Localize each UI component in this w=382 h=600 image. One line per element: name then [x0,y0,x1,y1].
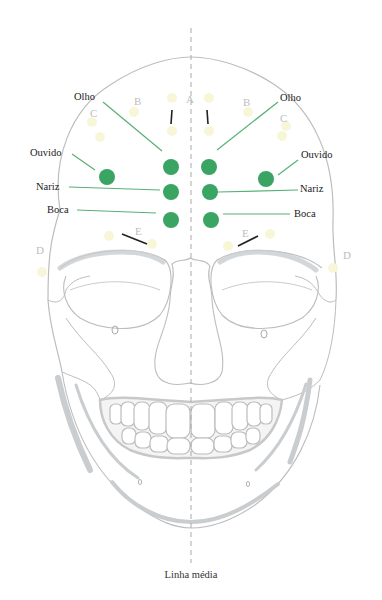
figure-caption: Linha média [0,569,382,580]
label-mouth-right: Boca [294,209,316,220]
acupoint-mouth-left [163,212,179,228]
acupoint-eye-right [201,159,217,175]
label-ear-left: Ouvido [30,148,62,159]
leader-lines [69,102,298,214]
label-eye-left: Olho [74,92,95,103]
acupoints [99,159,274,228]
nasal-cavity [155,258,223,384]
skull-illustration [0,0,382,600]
label-ear-right: Ouvido [301,150,333,161]
left-orbit [60,251,171,329]
zone-label-b-right: B [243,97,250,108]
zone-label-e-left: E [135,226,142,237]
label-mouth-left: Boca [47,205,69,216]
acupoint-nose-left [163,184,179,200]
zone-label-c-right: C [280,113,287,124]
label-nose-left: Nariz [36,182,59,193]
acupoint-ear-right [258,171,274,187]
acupoint-eye-left [163,159,179,175]
acupoint-nose-right [202,184,218,200]
acupoint-mouth-right [203,212,219,228]
skull-acupoint-diagram: A B B C C D D E E Olho Ouvido Nariz Boca… [0,0,382,600]
acupoint-ear-left [99,169,115,185]
zone-spots [37,93,338,277]
tick-marks [122,110,258,246]
zone-label-b-left: B [134,96,141,107]
zone-label-e-right: E [242,228,249,239]
label-eye-right: Olho [280,93,301,104]
zone-label-d-right: D [343,250,351,261]
label-nose-right: Nariz [300,184,323,195]
zone-label-d-left: D [36,245,44,256]
zone-label-a: A [186,94,194,105]
zone-label-c-left: C [90,108,97,119]
